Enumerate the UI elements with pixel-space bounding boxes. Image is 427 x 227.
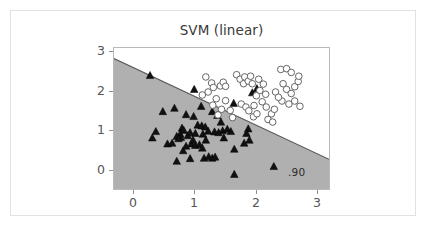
xtick-label: 1 xyxy=(182,195,206,210)
data-point xyxy=(246,107,253,114)
data-point xyxy=(229,114,236,121)
data-point xyxy=(190,85,198,92)
data-point xyxy=(247,73,254,80)
data-point xyxy=(254,111,261,118)
data-point xyxy=(209,102,216,109)
xtick-label: 3 xyxy=(305,195,329,210)
data-point xyxy=(291,98,298,105)
xtick-mark xyxy=(317,190,318,194)
data-point xyxy=(297,103,304,110)
ytick-mark xyxy=(109,91,113,92)
data-point xyxy=(249,80,256,87)
ytick-label: 2 xyxy=(83,83,105,98)
data-point xyxy=(295,73,302,80)
figure-canvas: SVM (linear) 0 1 2 3 0 1 2 3 .90 xyxy=(0,0,427,227)
ytick-mark xyxy=(109,170,113,171)
accuracy-score-annotation: .90 xyxy=(288,166,305,178)
page-title: SVM (linear) xyxy=(113,22,330,38)
data-point xyxy=(271,106,278,113)
data-point xyxy=(222,83,229,90)
data-point xyxy=(213,95,220,102)
data-point xyxy=(215,112,222,119)
data-point xyxy=(199,92,206,99)
data-point xyxy=(263,104,270,111)
data-point xyxy=(288,90,295,97)
xtick-mark xyxy=(133,190,134,194)
xtick-label: 2 xyxy=(244,195,268,210)
ytick-mark xyxy=(109,51,113,52)
data-point xyxy=(269,119,276,126)
data-point xyxy=(230,99,238,106)
data-point xyxy=(203,74,210,81)
xtick-label: 0 xyxy=(121,195,145,210)
ytick-mark xyxy=(109,130,113,131)
ytick-label: 3 xyxy=(83,43,105,58)
ytick-label: 0 xyxy=(83,162,105,177)
data-point xyxy=(253,92,260,99)
xtick-mark xyxy=(256,190,257,194)
data-point xyxy=(275,94,282,101)
data-point xyxy=(260,81,267,88)
data-point xyxy=(251,102,258,109)
ytick-label: 1 xyxy=(83,122,105,137)
data-point xyxy=(288,69,295,76)
data-point xyxy=(262,91,269,98)
data-point xyxy=(227,107,234,114)
xtick-mark xyxy=(194,190,195,194)
data-point xyxy=(222,97,229,104)
